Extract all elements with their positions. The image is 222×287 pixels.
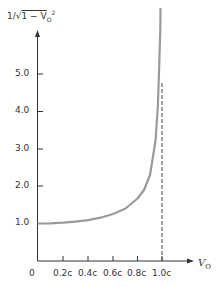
x-tick-label: 1.0c [152,268,171,278]
chart-canvas [0,0,222,287]
x-tick-label: 0.6c [103,268,122,278]
lorentz-curve [38,8,161,224]
y-axis-arrow-icon [35,30,40,37]
y-ticks [38,74,44,224]
y-tick-label: 5.0 [15,68,29,78]
x-axis-arrow-icon [187,259,194,264]
y-axis-title: 1/√1 − VO2 [7,9,55,23]
x-ticks [63,256,162,261]
x-tick-label: 0.8c [127,268,146,278]
origin-label: 0 [29,268,35,278]
y-tick-label: 4.0 [15,105,29,115]
x-tick-label: 0.2c [53,268,72,278]
x-tick-label: 0.4c [78,268,97,278]
x-axis-title: VO [198,257,211,271]
y-tick-label: 2.0 [15,180,29,190]
y-tick-label: 1.0 [15,217,29,227]
y-tick-label: 3.0 [15,143,29,153]
